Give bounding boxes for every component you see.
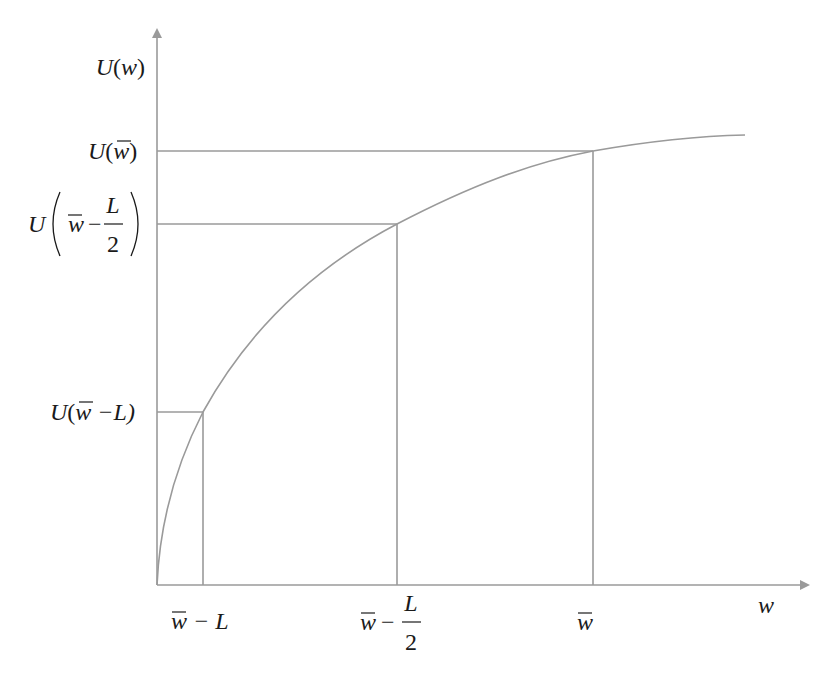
svg-text:U(w): U(w) [88, 138, 137, 164]
svg-text:U(w −L): U(w −L) [50, 399, 135, 425]
svg-text:−: − [88, 211, 102, 237]
svg-text:L: L [105, 192, 119, 218]
y-label-u-wbar: U(w) [88, 138, 137, 164]
svg-text:2: 2 [405, 629, 417, 655]
svg-text:L: L [403, 590, 417, 616]
y-label-u-wbar-L: U(w −L) [50, 399, 135, 425]
y-axis-label: U(w) [96, 54, 145, 80]
x-label-wbar-half: w − L 2 [360, 590, 421, 655]
svg-text:2: 2 [107, 231, 119, 257]
svg-text:−: − [381, 609, 395, 635]
x-axis-label: w [758, 592, 774, 618]
y-label-u-wbar-half: U w − L 2 [28, 192, 138, 257]
svg-text:U: U [28, 211, 47, 237]
x-label-wbar: w [577, 609, 593, 635]
x-label-wbar-L: w − L [171, 608, 229, 634]
utility-curve [157, 135, 745, 585]
utility-diagram: U(w) U(w) U w − L 2 U(w −L) w − L w − [0, 0, 840, 677]
